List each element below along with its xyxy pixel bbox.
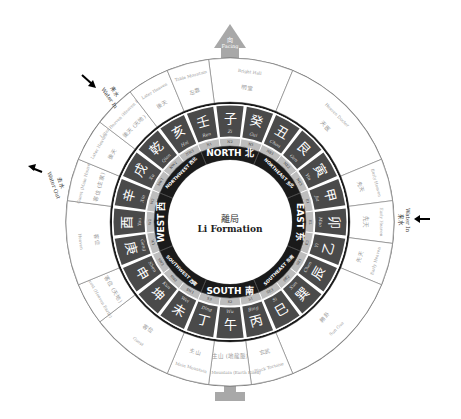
arrow-down-right-icon [82, 75, 96, 88]
mountain-code: W2 [148, 219, 152, 225]
water-in-east-label: Water In [405, 208, 411, 232]
facing-marker-label: Facing [222, 43, 240, 50]
facing-marker-chinese: 向 [227, 36, 233, 43]
water-in-east-arrow: 来水 Water In [397, 208, 430, 232]
outer-sector-english: Early Heaven [379, 208, 384, 237]
center-title-english: Li Formation [170, 224, 290, 234]
mountain-pinyin: Mao [318, 216, 323, 227]
mountain-chinese: 酉 [119, 216, 134, 229]
li-formation-compass-diagram: 向 Facing 明堂Bright Hall天医Heaven Doctor先天E… [0, 0, 461, 419]
mountain-chinese: 子 [224, 111, 237, 126]
mountain-pinyin: You [137, 218, 142, 226]
outer-sector: 先天Early Heaven [349, 201, 394, 244]
sitting-marker [215, 386, 245, 401]
mountain-chinese: 卯 [327, 216, 342, 229]
mountain-pinyin: Wu [226, 309, 233, 314]
arrow-left-icon [414, 215, 430, 223]
direction-label: NORTH 北 [206, 147, 254, 158]
water-out-west-arrow: 去水 Water Out [28, 164, 67, 201]
water-in-northwest-arrow: 来水 Water In [82, 75, 121, 110]
mountain-code: S2 [228, 300, 233, 304]
arrow-up-left-icon [28, 164, 42, 172]
direction-label: SOUTH 南 [206, 285, 253, 296]
water-in-east-chinese: 来水 [397, 214, 405, 226]
outer-sector-chinese: 主山 (地龍脈) [212, 352, 248, 360]
mountain-chinese: 午 [224, 317, 237, 332]
mountain-code: E2 [308, 220, 312, 225]
facing-marker: 向 Facing [214, 24, 246, 59]
mountain-pinyin: Zi [227, 129, 233, 134]
direction-label: WEST 西 [156, 202, 166, 243]
outer-sector-chinese: 先天 [362, 216, 370, 228]
direction-label: EAST 东 [295, 203, 306, 241]
mountain-code: N2 [227, 140, 232, 144]
